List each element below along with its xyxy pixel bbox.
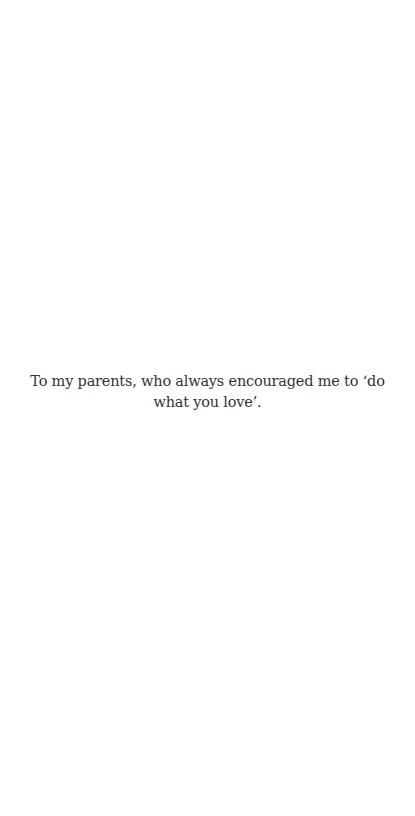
dedication-text: To my parents, who always encouraged me …	[28, 371, 387, 413]
dedication-page: To my parents, who always encouraged me …	[0, 0, 415, 816]
